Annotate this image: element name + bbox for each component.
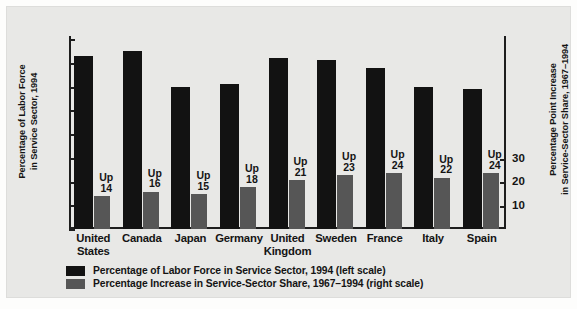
- bar-primary: [220, 84, 239, 229]
- tick-mark: [69, 229, 75, 231]
- bar-primary: [317, 60, 336, 229]
- bar-secondary: [483, 173, 499, 229]
- bar-group: Up 16: [123, 36, 159, 229]
- bar-group: Up 24: [366, 36, 402, 229]
- left-axis-title: Percentage of Labor Force in Service Sec…: [17, 27, 40, 217]
- bar-value-label: Up 24: [384, 149, 412, 170]
- legend-item: Percentage Increase in Service-Sector Sh…: [66, 277, 423, 290]
- tick-label: 20: [512, 176, 552, 188]
- tick-label: 30: [512, 153, 552, 165]
- legend-swatch: [66, 266, 85, 276]
- bar-value-label: Up 18: [238, 163, 266, 184]
- bar-value-label: Up 22: [432, 154, 460, 175]
- bar-value-label: Up 14: [92, 172, 120, 193]
- chart-legend: Percentage of Labor Force in Service Sec…: [66, 264, 423, 290]
- bar-value-label: Up 16: [141, 168, 169, 189]
- bar-group: Up 21: [269, 36, 305, 229]
- bar-value-label: Up 21: [287, 156, 315, 177]
- bar-secondary: [191, 194, 207, 229]
- legend-label: Percentage Increase in Service-Sector Sh…: [93, 278, 423, 289]
- bar-primary: [463, 89, 482, 229]
- bar-secondary: [386, 173, 402, 229]
- bar-primary: [269, 58, 288, 229]
- bar-secondary: [434, 178, 450, 229]
- bar-group: Up 15: [171, 36, 207, 229]
- bar-primary: [171, 87, 190, 230]
- bar-primary: [366, 68, 385, 230]
- bar-secondary: [94, 196, 110, 229]
- legend-label: Percentage of Labor Force in Service Sec…: [93, 265, 386, 276]
- left-spine: [69, 36, 71, 229]
- category-label: Spain: [451, 232, 512, 245]
- bar-primary: [123, 51, 142, 229]
- bar-primary: [414, 87, 433, 230]
- legend-swatch: [66, 279, 85, 289]
- bar-group: Up 22: [414, 36, 450, 229]
- bar-secondary: [143, 192, 159, 229]
- bar-value-label: Up 24: [481, 149, 509, 170]
- bar-group: Up 24: [463, 36, 499, 229]
- bar-secondary: [240, 187, 256, 229]
- bar-value-label: Up 23: [335, 151, 363, 172]
- bar-secondary: [289, 180, 305, 229]
- bar-group: Up 18: [220, 36, 256, 229]
- legend-item: Percentage of Labor Force in Service Sec…: [66, 264, 423, 277]
- bar-group: Up 14: [74, 36, 110, 229]
- bar-group: Up 23: [317, 36, 353, 229]
- bar-primary: [74, 56, 93, 229]
- tick-label: 10: [512, 200, 552, 212]
- bar-secondary: [337, 175, 353, 229]
- bar-value-label: Up 15: [189, 170, 217, 191]
- chart-figure: Percentage of Labor Force in Service Sec…: [6, 6, 571, 298]
